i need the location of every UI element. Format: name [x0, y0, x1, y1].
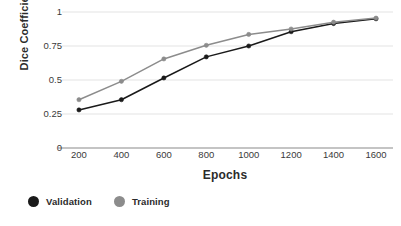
- x-tick-label: 400: [101, 150, 141, 160]
- legend-item-training[interactable]: Training: [114, 196, 170, 207]
- legend-label: Training: [132, 196, 170, 207]
- x-tick-label: 1400: [314, 150, 354, 160]
- line-chart: Dice Coefficient 00.250.50.751 200400600…: [0, 0, 401, 226]
- x-tick-label: 1600: [356, 150, 396, 160]
- circle-marker-icon: [28, 196, 39, 207]
- x-tick-label: 800: [186, 150, 226, 160]
- x-axis-label: Epochs: [60, 168, 390, 182]
- chart-legend: ValidationTraining: [28, 196, 170, 207]
- legend-label: Validation: [46, 196, 92, 207]
- x-tick-label: 1200: [271, 150, 311, 160]
- x-tick-label: 600: [144, 150, 184, 160]
- circle-marker-icon: [114, 196, 125, 207]
- x-tick-label: 1000: [229, 150, 269, 160]
- x-axis-ticks: 2004006008001000120014001600: [0, 0, 401, 226]
- x-tick-label: 200: [59, 150, 99, 160]
- legend-item-validation[interactable]: Validation: [28, 196, 92, 207]
